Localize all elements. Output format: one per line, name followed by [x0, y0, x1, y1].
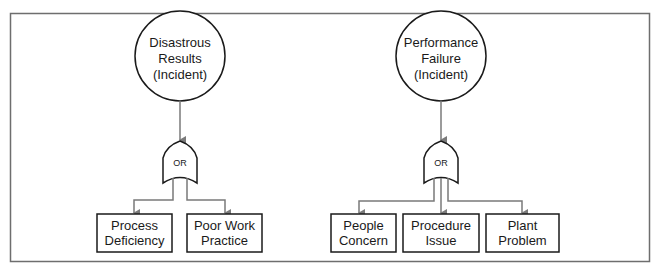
top-event-line: (Incident): [153, 67, 207, 82]
basic-event-label: Practice: [201, 233, 248, 248]
basic-event-label: Plant: [508, 218, 538, 233]
or-gate-label: OR: [173, 158, 187, 168]
top-event-line: Failure: [421, 51, 461, 66]
top-event-line: (Incident): [414, 67, 468, 82]
basic-event-label: Deficiency: [105, 233, 165, 248]
connector-arrow: [134, 178, 173, 213]
basic-event-label: Problem: [498, 233, 546, 248]
basic-event-label: Process: [111, 218, 158, 233]
connector-arrow: [187, 178, 225, 213]
basic-event-label: Procedure: [411, 218, 471, 233]
top-event-line: Results: [158, 51, 202, 66]
tree-right: Performance Failure (Incident) OR People…: [331, 11, 559, 252]
or-gate-label: OR: [434, 158, 448, 168]
top-event-line: Performance: [404, 35, 478, 50]
basic-event-label: People: [343, 218, 383, 233]
connector-arrow: [359, 178, 434, 213]
basic-event-label: Concern: [339, 233, 388, 248]
connector-arrow: [448, 178, 522, 213]
top-event-line: Disastrous: [149, 35, 211, 50]
tree-left: Disastrous Results (Incident) OR Process…: [97, 11, 262, 252]
basic-event-label: Issue: [425, 233, 456, 248]
fault-tree-diagram: Disastrous Results (Incident) OR Process…: [0, 0, 660, 270]
basic-event-label: Poor Work: [194, 218, 256, 233]
